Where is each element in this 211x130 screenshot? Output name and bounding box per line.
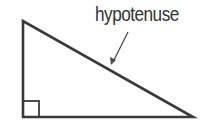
hypotenuse-label: hypotenuse <box>95 3 190 25</box>
right-angle-marker <box>23 101 39 117</box>
right-triangle-diagram: hypotenuse <box>0 0 211 130</box>
right-triangle <box>23 21 193 117</box>
arrow-line <box>113 32 128 62</box>
